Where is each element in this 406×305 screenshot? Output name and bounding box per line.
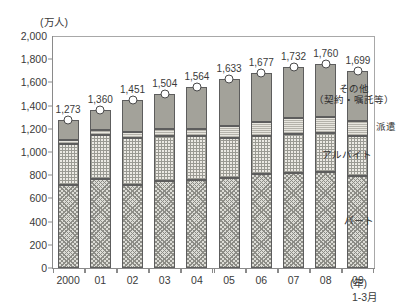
series-label-line1: パート xyxy=(344,216,374,227)
bar-segment-other xyxy=(154,94,175,130)
series-label-line1: アルバイト xyxy=(322,150,372,161)
x-axis-tick-label: 08 xyxy=(320,274,332,286)
y-axis-tick-label: 600 xyxy=(29,192,47,204)
x-axis-tick-label: 03 xyxy=(159,274,171,286)
x-axis-tick-label: 01 xyxy=(94,274,106,286)
y-axis-tick-label: 0 xyxy=(41,262,47,274)
x-axis-tick-label: 06 xyxy=(255,274,267,286)
series-label-haken: 派遣 xyxy=(376,122,396,133)
y-axis-tick-label: 1,200 xyxy=(21,123,47,135)
data-point-marker xyxy=(192,82,201,91)
x-axis-tick-mark xyxy=(310,269,311,273)
y-axis-tick-mark xyxy=(48,175,52,176)
y-axis-tick-mark xyxy=(48,244,52,245)
bar-segment-haken xyxy=(347,121,368,136)
y-axis-tick-mark xyxy=(48,152,52,153)
data-point-marker xyxy=(321,59,330,68)
bar-segment-other xyxy=(186,87,207,129)
y-axis-unit-label: (万人) xyxy=(40,14,68,29)
bar-segment-haken xyxy=(186,129,207,136)
x-axis-tick-mark xyxy=(246,269,247,273)
bar-06 xyxy=(251,73,272,268)
bar-value-label: 1,564 xyxy=(184,71,209,82)
data-point-marker xyxy=(96,106,105,115)
series-label-arbeit: アルバイト xyxy=(322,150,372,161)
x-axis-tick-label: 02 xyxy=(127,274,139,286)
bar-value-label: 1,677 xyxy=(249,57,274,68)
bar-value-label: 1,699 xyxy=(345,55,370,66)
data-point-marker xyxy=(128,95,137,104)
bar-segment-other xyxy=(122,100,143,132)
bar-segment-haken xyxy=(251,122,272,136)
bar-segment-other xyxy=(251,73,272,121)
x-axis-tick-mark xyxy=(373,269,374,273)
bar-segment-arbeit xyxy=(58,144,79,185)
bar-05 xyxy=(219,79,240,268)
bar-segment-haken xyxy=(90,130,111,135)
bar-segment-part xyxy=(315,172,336,268)
bar-value-label: 1,633 xyxy=(217,63,242,74)
chart-container: (万人) 02004006008001,0001,2001,4001,6001,… xyxy=(0,0,406,305)
series-label-part: パート xyxy=(344,216,374,227)
bar-segment-part xyxy=(186,180,207,269)
x-axis-period-note: 1-3月 xyxy=(352,289,377,304)
y-axis-tick-label: 400 xyxy=(29,216,47,228)
x-axis-tick-label: 07 xyxy=(288,274,300,286)
x-axis-tick-label: 04 xyxy=(191,274,203,286)
data-point-marker xyxy=(289,63,298,72)
y-axis-tick-label: 1,800 xyxy=(21,53,47,65)
bar-02 xyxy=(122,100,143,268)
bar-segment-part xyxy=(219,178,240,268)
bar-segment-haken xyxy=(219,126,240,138)
series-label-line1: 派遣 xyxy=(376,122,396,133)
bar-segment-arbeit xyxy=(186,136,207,180)
bar-segment-arbeit xyxy=(283,134,304,173)
y-axis-tick-label: 800 xyxy=(29,169,47,181)
bar-segment-haken xyxy=(58,140,79,144)
y-axis-tick-mark xyxy=(48,59,52,60)
x-axis-tick-mark xyxy=(117,269,118,273)
y-axis-tick-mark xyxy=(48,221,52,222)
bar-segment-arbeit xyxy=(90,135,111,179)
y-axis-tick-label: 2,000 xyxy=(21,30,47,42)
data-point-marker xyxy=(160,89,169,98)
bar-segment-part xyxy=(251,174,272,268)
y-axis-tick-mark xyxy=(48,128,52,129)
bar-segment-part xyxy=(154,181,175,268)
y-axis-tick-mark xyxy=(48,268,52,269)
y-axis-tick-mark xyxy=(48,82,52,83)
bar-value-label: 1,360 xyxy=(88,94,113,105)
y-axis-tick-label: 1,400 xyxy=(21,100,47,112)
bar-segment-arbeit xyxy=(251,136,272,174)
x-axis-tick-mark xyxy=(278,269,279,273)
data-point-marker xyxy=(353,66,362,75)
bar-value-label: 1,760 xyxy=(313,48,338,59)
bar-segment-haken xyxy=(122,132,143,138)
bar-segment-arbeit xyxy=(219,138,240,177)
y-axis-tick-mark xyxy=(48,198,52,199)
bar-07 xyxy=(283,67,304,268)
x-axis-tick-label: 09 xyxy=(352,274,364,286)
bar-value-label: 1,504 xyxy=(152,78,177,89)
y-axis-tick-label: 1,600 xyxy=(21,76,47,88)
x-axis-tick-mark xyxy=(149,269,150,273)
bar-segment-other xyxy=(283,67,304,118)
x-axis-tick-label: 05 xyxy=(223,274,235,286)
x-axis-tick-mark xyxy=(181,269,182,273)
x-axis-tick-mark xyxy=(85,269,86,273)
bar-segment-part xyxy=(122,185,143,268)
bar-segment-part xyxy=(283,173,304,268)
x-axis-tick-mark xyxy=(342,269,343,273)
y-axis-tick-label: 200 xyxy=(29,239,47,251)
bar-segment-other xyxy=(219,79,240,126)
bar-segment-arbeit xyxy=(122,138,143,185)
bar-2000 xyxy=(58,120,79,268)
data-point-marker xyxy=(64,116,73,125)
bar-segment-arbeit xyxy=(154,136,175,181)
y-axis-tick-label: 1,000 xyxy=(21,146,47,158)
x-axis-tick-mark xyxy=(214,269,215,273)
bar-value-label: 1,451 xyxy=(120,84,145,95)
bar-segment-haken xyxy=(154,129,175,135)
x-axis-tick-mark xyxy=(53,269,54,273)
bar-segment-haken xyxy=(315,117,336,133)
